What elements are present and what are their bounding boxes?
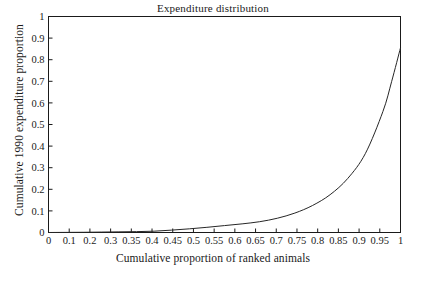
svg-text:0: 0 [46, 235, 51, 246]
svg-text:0.6: 0.6 [31, 98, 44, 109]
svg-text:0.8: 0.8 [31, 54, 44, 65]
svg-text:0.4: 0.4 [31, 141, 45, 152]
svg-text:0.6: 0.6 [228, 235, 241, 246]
axis-frame [49, 17, 401, 233]
svg-text:0.85: 0.85 [329, 235, 347, 246]
svg-text:0.8: 0.8 [311, 235, 324, 246]
svg-text:0.1: 0.1 [63, 235, 76, 246]
svg-text:0.65: 0.65 [246, 235, 264, 246]
svg-text:0.1: 0.1 [31, 206, 44, 217]
svg-text:0.7: 0.7 [270, 235, 283, 246]
y-axis-ticks [49, 17, 53, 233]
plot-area: 00.10.20.30.350.40.450.50.550.60.650.70.… [0, 0, 426, 281]
svg-text:0.2: 0.2 [31, 184, 44, 195]
svg-text:0.55: 0.55 [205, 235, 223, 246]
svg-text:0.7: 0.7 [31, 76, 44, 87]
svg-text:1: 1 [39, 11, 44, 22]
svg-text:0.5: 0.5 [187, 235, 200, 246]
svg-text:0.35: 0.35 [122, 235, 140, 246]
x-axis-tick-labels: 00.10.20.30.350.40.450.50.550.60.650.70.… [46, 235, 403, 246]
data-curve [49, 48, 401, 233]
svg-text:0.2: 0.2 [83, 235, 96, 246]
svg-text:0.95: 0.95 [371, 235, 389, 246]
svg-text:0: 0 [39, 227, 44, 238]
svg-text:0.9: 0.9 [31, 33, 44, 44]
svg-text:0.9: 0.9 [353, 235, 366, 246]
y-axis-tick-labels: 00.10.20.30.40.50.60.70.80.91 [31, 11, 45, 238]
svg-text:0.3: 0.3 [104, 235, 117, 246]
svg-text:1: 1 [398, 235, 403, 246]
svg-text:0.5: 0.5 [31, 119, 44, 130]
chart-figure: Expenditure distribution Cumulative 1990… [0, 0, 426, 281]
svg-text:0.4: 0.4 [145, 235, 159, 246]
svg-text:0.75: 0.75 [288, 235, 306, 246]
svg-text:0.45: 0.45 [164, 235, 182, 246]
svg-text:0.3: 0.3 [31, 162, 44, 173]
